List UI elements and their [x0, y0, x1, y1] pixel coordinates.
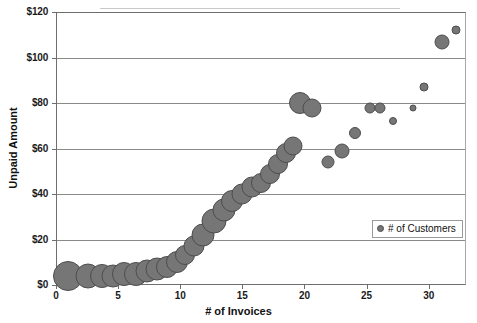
- data-bubble[interactable]: [389, 117, 397, 125]
- x-tick-label: 20: [299, 290, 310, 301]
- x-tick-mark: [367, 285, 368, 289]
- gridline-y: [57, 149, 465, 150]
- data-bubble[interactable]: [322, 156, 335, 169]
- x-tick-label: 10: [175, 290, 186, 301]
- gridline-y: [57, 194, 465, 195]
- data-bubble[interactable]: [419, 83, 428, 92]
- y-tick-label: $0: [0, 279, 48, 290]
- y-tick-label: $100: [0, 52, 48, 63]
- gridline-y: [57, 240, 465, 241]
- x-tick-mark: [304, 285, 305, 289]
- data-bubble[interactable]: [334, 143, 349, 158]
- data-bubble[interactable]: [284, 137, 303, 156]
- x-tick-label: 0: [53, 290, 59, 301]
- data-bubble[interactable]: [302, 98, 321, 117]
- y-tick-mark: [52, 12, 56, 13]
- legend-label: # of Customers: [388, 223, 456, 234]
- clipped-title-rule: [100, 8, 400, 9]
- legend[interactable]: # of Customers: [372, 220, 463, 238]
- x-axis-title: # of Invoices: [0, 305, 477, 317]
- bubble-chart: $0$20$40$60$80$100$120 051015202530 Unpa…: [0, 0, 477, 323]
- data-bubble[interactable]: [435, 34, 450, 49]
- data-bubble[interactable]: [375, 102, 386, 113]
- y-tick-mark: [52, 58, 56, 59]
- y-tick-label: $120: [0, 6, 48, 17]
- x-tick-label: 5: [115, 290, 121, 301]
- x-tick-mark: [429, 285, 430, 289]
- data-bubble[interactable]: [452, 26, 461, 35]
- y-tick-mark: [52, 149, 56, 150]
- gridline-y: [57, 103, 465, 104]
- data-bubble[interactable]: [349, 127, 361, 139]
- plot-area: [56, 12, 466, 285]
- x-tick-mark: [180, 285, 181, 289]
- x-tick-label: 15: [237, 290, 248, 301]
- x-tick-mark: [242, 285, 243, 289]
- y-axis-title: Unpaid Amount: [7, 83, 19, 213]
- x-tick-label: 25: [361, 290, 372, 301]
- data-bubble[interactable]: [409, 104, 416, 111]
- x-tick-label: 30: [423, 290, 434, 301]
- y-tick-label: $20: [0, 234, 48, 245]
- gridline-y: [57, 58, 465, 59]
- y-tick-mark: [52, 240, 56, 241]
- y-tick-mark: [52, 103, 56, 104]
- legend-bubble-marker-icon: [377, 225, 384, 232]
- y-tick-mark: [52, 194, 56, 195]
